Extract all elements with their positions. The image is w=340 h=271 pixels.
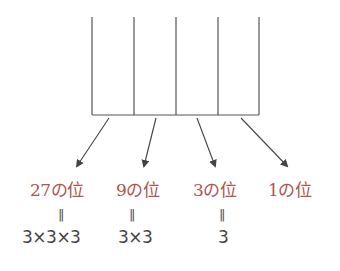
arrow-1 [241, 118, 287, 166]
place-label-3: 3の位 [193, 176, 236, 201]
place-value-box [92, 17, 259, 115]
expression-3: 3 [218, 227, 228, 247]
arrow-9 [144, 118, 156, 166]
place-label-9: 9の位 [116, 176, 159, 201]
equals-sign-9: ‖ [129, 207, 136, 222]
equals-sign-3: ‖ [219, 207, 226, 222]
expression-9: 3×3 [118, 227, 152, 247]
equals-sign-27: ‖ [58, 207, 65, 222]
arrow-27 [77, 118, 109, 166]
arrow-3 [197, 118, 215, 166]
place-label-1: 1の位 [268, 176, 311, 201]
place-label-27: 27の位 [30, 176, 84, 201]
expression-27: 3×3×3 [22, 227, 80, 247]
